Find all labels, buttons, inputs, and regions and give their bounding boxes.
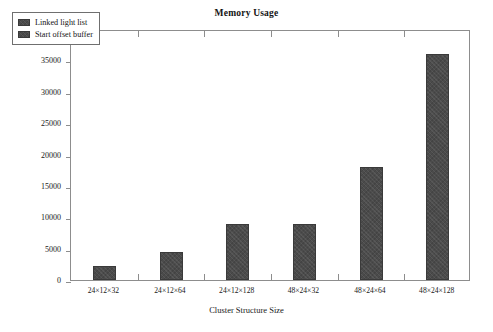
legend-item-label: Linked light list: [35, 18, 87, 27]
x-axis-tick-label: 24×12×32: [88, 286, 119, 295]
y-axis-tick-label: 30000: [41, 88, 61, 97]
x-axis-tick-label: 24×12×128: [219, 286, 254, 295]
legend-item-label: Start offset buffer: [35, 30, 93, 39]
bar-5: [426, 54, 449, 280]
legend-item: Start offset buffer: [18, 28, 93, 40]
bar-3: [293, 224, 316, 280]
x-axis-tick-mark: [404, 31, 405, 37]
x-axis-tick-mark: [338, 31, 339, 37]
y-axis-tick-mark: [66, 188, 71, 189]
y-axis-tick-label: 0: [57, 276, 61, 285]
x-axis-tick-mark: [404, 274, 405, 280]
y-axis-tick-mark: [66, 157, 71, 158]
y-axis-tick-mark: [66, 125, 71, 126]
y-axis-label-container: Video Memory in kB: [10, 30, 24, 281]
y-axis-tick-label: 25000: [41, 119, 61, 128]
x-axis-tick-mark: [138, 274, 139, 280]
x-axis-tick-label: 48×24×64: [354, 286, 385, 295]
legend-swatch-icon: [18, 19, 30, 26]
y-axis-tick-label: 20000: [41, 151, 61, 160]
y-axis-tick-label: 10000: [41, 213, 61, 222]
y-axis-tick-mark: [66, 282, 71, 283]
y-axis-tick-mark: [66, 62, 71, 63]
x-axis-tick-mark: [204, 274, 205, 280]
bar-0: [93, 266, 116, 280]
legend-swatch-icon: [18, 31, 30, 38]
plot-area: 0500010000150002000025000300003500040000: [71, 31, 469, 280]
x-axis-tick-label: 24×12×64: [154, 286, 185, 295]
y-axis-tick-mark: [66, 94, 71, 95]
x-axis-tick-mark: [271, 31, 272, 37]
x-axis-label: Cluster Structure Size: [0, 305, 493, 315]
y-axis-tick-label: 15000: [41, 182, 61, 191]
x-axis-tick-mark: [338, 274, 339, 280]
plot-frame: 0500010000150002000025000300003500040000: [70, 30, 470, 281]
y-axis-tick-label: 5000: [45, 245, 61, 254]
x-axis-tick-mark: [271, 274, 272, 280]
bar-1: [160, 252, 183, 280]
x-axis-tick-label: 48×24×128: [419, 286, 454, 295]
x-axis-tick-mark: [138, 31, 139, 37]
x-axis-tick-label: 48×24×32: [288, 286, 319, 295]
chart-legend: Linked light listStart offset buffer: [12, 12, 100, 45]
legend-item: Linked light list: [18, 16, 93, 28]
y-axis-tick-mark: [66, 219, 71, 220]
bar-4: [360, 167, 383, 280]
y-axis-tick-mark: [66, 251, 71, 252]
x-axis-tick-mark: [204, 31, 205, 37]
bar-2: [226, 224, 249, 280]
chart-figure: Memory Usage Video Memory in kB 05000100…: [0, 0, 493, 332]
y-axis-tick-label: 35000: [41, 56, 61, 65]
